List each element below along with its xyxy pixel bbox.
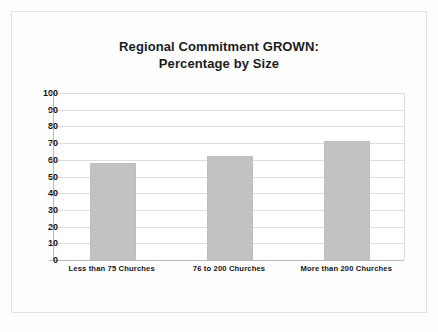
gridline-90 (54, 110, 404, 111)
gridline-0 (54, 260, 404, 261)
y-axis-tick-label-70: 70 (26, 138, 58, 148)
bar-2[interactable] (207, 156, 253, 260)
y-axis-tick-label-20: 20 (26, 222, 58, 232)
y-axis-tick-mark-10 (49, 243, 53, 244)
y-axis-tick-mark-30 (49, 210, 53, 211)
gridline-80 (54, 126, 404, 127)
x-axis-tick-label-1: Less than 75 Churches (69, 264, 155, 273)
bar-3[interactable] (324, 141, 370, 260)
chart-title-line-2: Percentage by Size (12, 55, 426, 72)
y-axis-tick-mark-100 (49, 93, 53, 94)
y-axis-tick-label-40: 40 (26, 188, 58, 198)
y-axis-tick-mark-40 (49, 193, 53, 194)
plot-area: 1009080706050403020100 (53, 93, 405, 260)
gridline-100 (54, 93, 404, 94)
x-axis-tick-label-3: More than 200 Churches (301, 264, 393, 273)
y-axis-tick-mark-50 (49, 177, 53, 178)
chart-title-line-1: Regional Commitment GROWN: (119, 39, 319, 54)
y-axis-tick-label-50: 50 (26, 172, 58, 182)
plot-inner (53, 93, 405, 260)
y-axis-tick-label-90: 90 (26, 105, 58, 115)
y-axis-tick-label-30: 30 (26, 205, 58, 215)
y-axis-tick-mark-70 (49, 143, 53, 144)
y-axis-tick-mark-80 (49, 126, 53, 127)
bar-1[interactable] (90, 163, 136, 260)
y-axis-tick-label-80: 80 (26, 121, 58, 131)
y-axis-tick-mark-0 (49, 260, 53, 261)
chart-frame: Regional Commitment GROWN: Percentage by… (11, 11, 427, 313)
y-axis-tick-mark-90 (49, 110, 53, 111)
y-axis-tick-mark-60 (49, 160, 53, 161)
x-axis-tick-label-2: 76 to 200 Churches (193, 264, 265, 273)
y-axis-tick-label-60: 60 (26, 155, 58, 165)
x-axis-labels: Less than 75 Churches76 to 200 ChurchesM… (53, 264, 405, 284)
y-axis-tick-label-10: 10 (26, 238, 58, 248)
y-axis-tick-mark-20 (49, 227, 53, 228)
y-axis-tick-label-100: 100 (26, 88, 58, 98)
chart-title: Regional Commitment GROWN: Percentage by… (12, 38, 426, 72)
